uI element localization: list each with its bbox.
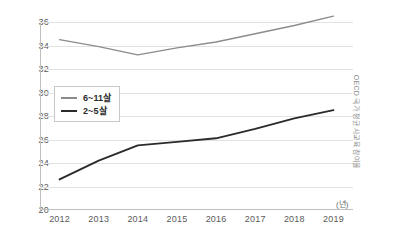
legend: 6~11살2~5살 bbox=[54, 86, 120, 122]
x-axis-tick-label: 2016 bbox=[197, 214, 236, 232]
legend-swatch-icon bbox=[61, 97, 77, 99]
legend-label: 6~11살 bbox=[83, 91, 111, 104]
line-chart: 202224262830323436 201220132014201520162… bbox=[0, 0, 396, 243]
x-axis-unit-label: (년) bbox=[336, 198, 348, 209]
side-caption-text: OECD 국가 평균 사교육 참여율 bbox=[352, 75, 362, 168]
x-axis-tick-label: 2018 bbox=[275, 214, 314, 232]
x-axis-tick-label: 2019 bbox=[314, 214, 353, 232]
x-axis-tick-label: 2015 bbox=[157, 214, 196, 232]
series-line bbox=[60, 16, 334, 55]
x-axis-tick-label: 2013 bbox=[79, 214, 118, 232]
x-axis-tick-label: 2014 bbox=[118, 214, 157, 232]
x-axis-tick-labels: 20122013201420152016201720182019 bbox=[40, 214, 353, 232]
legend-label: 2~5살 bbox=[83, 104, 107, 117]
legend-swatch-icon bbox=[61, 110, 77, 112]
legend-item[interactable]: 6~11살 bbox=[61, 91, 111, 104]
legend-item[interactable]: 2~5살 bbox=[61, 104, 111, 117]
x-axis-tick-label: 2012 bbox=[40, 214, 79, 232]
x-axis-tick-label: 2017 bbox=[236, 214, 275, 232]
